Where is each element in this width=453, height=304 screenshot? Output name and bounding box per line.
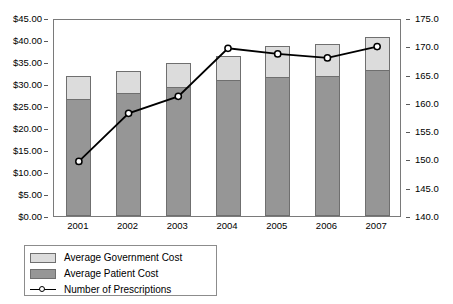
left-axis-tick-mark [44,19,48,20]
left-axis-tick-mark [44,195,48,196]
x-axis-tick-label: 2007 [351,220,401,232]
x-axis-labels: 2001200220032004200520062007 [53,220,401,236]
right-axis-tick-mark [406,104,410,105]
right-axis-tick-label: 175.0 [415,14,439,24]
legend-label-government-cost: Average Government Cost [64,252,182,263]
right-axis: 140.0145.0150.0155.0160.0165.0170.0175.0 [406,19,453,217]
x-axis-tick-label: 2006 [302,220,352,232]
left-axis-tick-mark [44,63,48,64]
left-axis-tick-label: $20.00 [13,124,42,134]
x-axis-tick-label: 2002 [103,220,153,232]
left-axis-tick-mark [44,217,48,218]
legend-label-patient-cost: Average Patient Cost [64,268,158,279]
left-axis-tick-label: $40.00 [13,36,42,46]
prescriptions-data-point-marker [76,158,82,164]
left-axis-tick-label: $30.00 [13,80,42,90]
legend-label-prescriptions: Number of Prescriptions [64,284,171,295]
x-axis-tick-label: 2001 [53,220,103,232]
left-axis: $0.00$5.00$10.00$15.00$20.00$25.00$30.00… [0,19,48,217]
legend-swatch-government-cost-icon [30,253,56,263]
left-axis-tick-mark [44,107,48,108]
left-axis-tick-label: $10.00 [13,168,42,178]
prescriptions-line-series [54,20,402,218]
prescriptions-data-point-marker [275,51,281,57]
right-axis-tick-mark [406,217,410,218]
left-axis-tick-mark [44,151,48,152]
prescriptions-data-point-marker [125,110,131,116]
prescriptions-data-point-marker [175,93,181,99]
right-axis-tick-label: 145.0 [415,184,439,194]
chart-legend: Average Government Cost Average Patient … [24,245,217,296]
plot-area [53,19,401,217]
prescriptions-data-point-marker [374,43,380,49]
right-axis-tick-mark [406,189,410,190]
right-axis-tick-label: 165.0 [415,71,439,81]
left-axis-tick-label: $5.00 [18,190,42,200]
left-axis-tick-mark [44,129,48,130]
left-axis-tick-label: $25.00 [13,102,42,112]
right-axis-tick-mark [406,132,410,133]
x-axis-tick-label: 2003 [152,220,202,232]
left-axis-tick-mark [44,173,48,174]
right-axis-tick-mark [406,19,410,20]
right-axis-tick-label: 155.0 [415,127,439,137]
right-axis-tick-mark [406,47,410,48]
left-axis-tick-mark [44,85,48,86]
right-axis-tick-mark [406,76,410,77]
prescription-cost-chart: $0.00$5.00$10.00$15.00$20.00$25.00$30.00… [0,0,453,304]
legend-line-marker-icon [30,285,56,295]
left-axis-tick-label: $0.00 [18,212,42,222]
left-axis-tick-label: $15.00 [13,146,42,156]
legend-swatch-patient-cost-icon [30,269,56,279]
right-axis-tick-mark [406,160,410,161]
x-axis-tick-label: 2005 [252,220,302,232]
right-axis-tick-label: 170.0 [415,42,439,52]
legend-item-patient-cost: Average Patient Cost [30,266,211,281]
prescriptions-data-point-marker [225,45,231,51]
left-axis-tick-label: $45.00 [13,14,42,24]
right-axis-tick-label: 150.0 [415,155,439,165]
prescriptions-line-path [79,47,377,162]
left-axis-tick-label: $35.00 [13,58,42,68]
x-axis-tick-label: 2004 [202,220,252,232]
right-axis-tick-label: 160.0 [415,99,439,109]
prescriptions-data-point-marker [324,55,330,61]
legend-item-government-cost: Average Government Cost [30,250,211,265]
right-axis-tick-label: 140.0 [415,212,439,222]
legend-item-prescriptions: Number of Prescriptions [30,282,211,297]
left-axis-tick-mark [44,41,48,42]
